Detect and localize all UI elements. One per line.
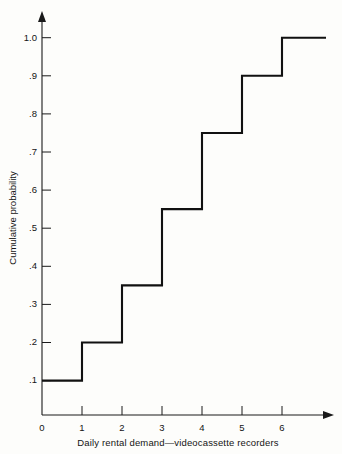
y-tick-label-0.1: .1 [29, 374, 37, 385]
x-axis-ticks [82, 406, 282, 415]
data-series-group [42, 38, 326, 381]
x-tick-label-6: 6 [279, 422, 284, 433]
y-axis-arrow-icon [38, 11, 46, 22]
y-tick-label-0.8: .8 [29, 108, 37, 119]
y-tick-label-0.3: .3 [29, 298, 37, 309]
x-tick-label-0: 0 [39, 422, 44, 433]
x-tick-label-4: 4 [199, 422, 204, 433]
y-axis-ticks [42, 38, 51, 381]
y-tick-label-0.2: .2 [29, 336, 37, 347]
x-axis-tick-labels: 0 1 2 3 4 5 6 [39, 422, 284, 433]
figure-container: 1.0 .9 .8 .7 .6 .5 .4 .3 .2 .1 0 1 2 3 4… [0, 0, 342, 454]
x-axis-arrow-icon [323, 411, 334, 419]
cumulative-step-line [42, 38, 326, 381]
x-tick-label-1: 1 [79, 422, 84, 433]
y-tick-label-1.0: 1.0 [24, 32, 37, 43]
x-tick-label-3: 3 [159, 422, 164, 433]
x-tick-label-5: 5 [239, 422, 244, 433]
y-tick-label-0.5: .5 [29, 222, 37, 233]
y-tick-label-0.4: .4 [29, 260, 37, 271]
y-axis-title: Cumulative probability [7, 171, 18, 265]
y-tick-label-0.9: .9 [29, 70, 37, 81]
x-tick-label-2: 2 [119, 422, 124, 433]
y-tick-label-0.7: .7 [29, 146, 37, 157]
y-axis-tick-labels: 1.0 .9 .8 .7 .6 .5 .4 .3 .2 .1 [24, 32, 37, 385]
x-axis-caption: Daily rental demand—videocassette record… [77, 437, 278, 448]
y-tick-label-0.6: .6 [29, 184, 37, 195]
cumulative-probability-step-chart: 1.0 .9 .8 .7 .6 .5 .4 .3 .2 .1 0 1 2 3 4… [0, 0, 342, 454]
